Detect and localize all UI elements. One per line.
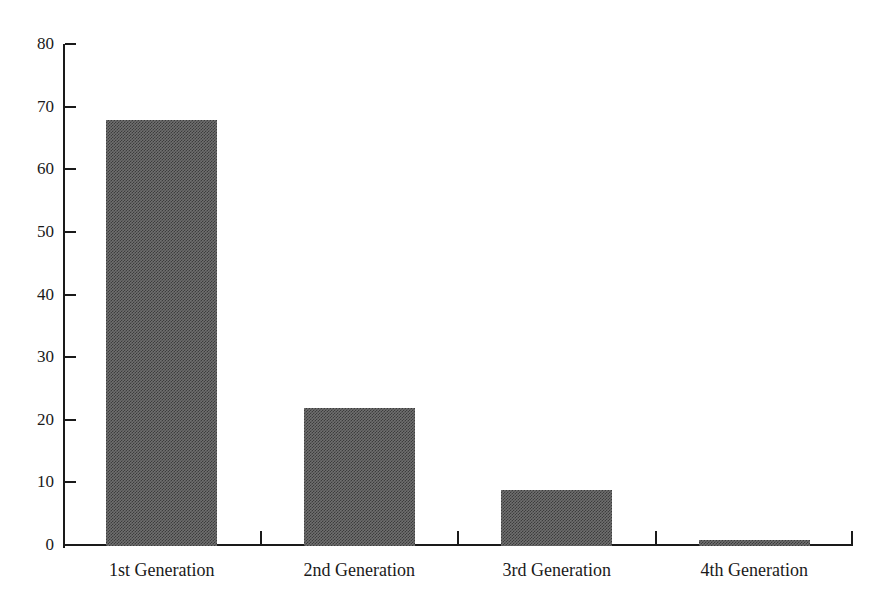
y-axis-tick: [65, 106, 76, 108]
bar: [106, 120, 217, 546]
y-axis-tick-label: 80: [18, 35, 54, 52]
x-axis-tick: [655, 531, 657, 545]
bar: [304, 408, 415, 546]
bar: [699, 540, 810, 546]
y-axis-tick-label: 40: [18, 286, 54, 303]
y-axis-tick: [65, 419, 76, 421]
y-axis-tick-label: 70: [18, 98, 54, 115]
y-axis-tick: [65, 43, 76, 45]
bar: [501, 490, 612, 546]
x-axis-tick: [457, 531, 459, 545]
y-axis-tick: [65, 168, 76, 170]
x-axis-category-label: 4th Generation: [656, 560, 854, 580]
y-axis-tick: [65, 231, 76, 233]
y-axis-tick-label: 60: [18, 160, 54, 177]
y-axis-tick: [65, 481, 76, 483]
y-axis-tick-label: 20: [18, 411, 54, 428]
bar-chart: 01020304050607080 1st Generation2nd Gene…: [0, 0, 887, 611]
y-axis-tick: [65, 294, 76, 296]
y-axis-tick-label: 50: [18, 223, 54, 240]
x-axis-category-label: 1st Generation: [63, 560, 261, 580]
y-axis-tick-label: 30: [18, 348, 54, 365]
x-axis-category-label: 3rd Generation: [458, 560, 656, 580]
x-axis-tick: [851, 531, 853, 545]
x-axis-category-label: 2nd Generation: [261, 560, 459, 580]
x-axis-tick: [260, 531, 262, 545]
y-axis-tick-label: 10: [18, 473, 54, 490]
y-axis-tick: [65, 356, 76, 358]
y-axis-tick: [65, 544, 76, 546]
y-axis-tick-label: 0: [18, 536, 54, 553]
y-axis-line: [63, 44, 65, 548]
